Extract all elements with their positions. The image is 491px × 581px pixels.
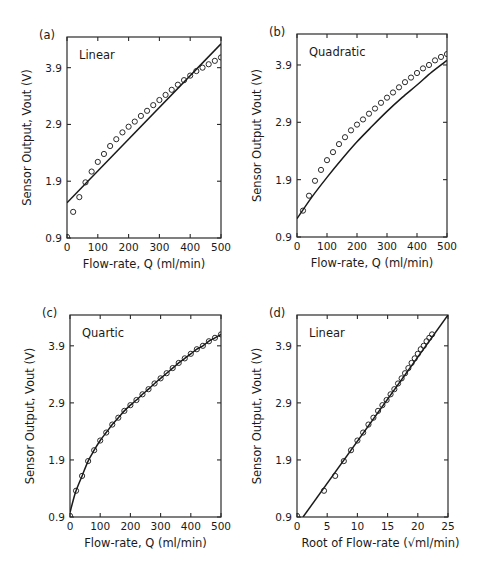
x-tick-label: 100 [317,240,337,252]
y-tick-label: 3.9 [275,59,292,71]
y-tick-label: 1.9 [45,175,62,187]
data-point [157,97,162,102]
y-axis-label: Sensor Output, Vout (V) [250,348,264,485]
x-tick-label: 25 [441,520,454,532]
fit-type-label: Linear [309,326,345,340]
y-tick-label: 2.9 [48,397,65,409]
figure: 01002003004005000.91.92.93.9(a)LinearFlo… [0,0,491,581]
data-point [138,113,143,118]
y-tick-label: 3.9 [48,340,65,352]
data-point [378,100,383,105]
fit-line [297,60,447,218]
x-tick-label: 0 [64,241,71,253]
y-tick-label: 1.9 [48,454,65,466]
data-point [132,119,137,124]
data-point [114,137,119,142]
data-point [101,151,106,156]
data-point [432,58,437,63]
y-axis-label: Sensor Output, Vout (V) [23,348,37,485]
y-tick-label: 2.9 [275,116,292,128]
y-axis-label: Sensor Output Vout (V) [250,69,264,202]
x-tick-label: 200 [347,240,367,252]
x-tick-label: 100 [90,520,110,532]
data-point [360,117,365,122]
y-axis-label: Sensor Output, Vout (V) [20,69,34,206]
panel-label: (d) [269,306,285,320]
data-point [206,62,211,67]
x-axis-label: Flow-rate, Q (ml/min) [311,256,434,270]
data-point [77,195,82,200]
y-tick-label: 0.9 [275,231,292,243]
data-point [438,54,443,59]
fit-line [303,315,448,517]
x-tick-label: 300 [149,241,169,253]
panel-a: 01002003004005000.91.92.93.9(a)LinearFlo… [20,28,231,271]
data-point [144,108,149,113]
x-tick-label: 400 [181,520,201,532]
x-tick-label: 200 [120,520,140,532]
x-tick-label: 500 [211,520,231,532]
y-tick-label: 3.9 [45,62,62,74]
data-point [396,85,401,90]
data-point [366,111,371,116]
fit-line [70,334,221,512]
plot-frame [70,315,221,517]
data-point [342,135,347,140]
panel-b: 01002003004005000.91.92.93.9(b)Quadratic… [250,25,457,270]
y-tick-label: 1.9 [275,454,292,466]
data-point [95,159,100,164]
data-point [318,167,323,172]
data-point [390,90,395,95]
fit-type-label: Quadratic [309,45,366,59]
x-tick-label: 0 [294,520,301,532]
x-tick-label: 100 [88,241,108,253]
panel-label: (a) [39,28,55,42]
y-tick-label: 2.9 [45,118,62,130]
x-tick-label: 10 [351,520,364,532]
x-tick-label: 500 [211,241,231,253]
panel-label: (b) [269,25,285,39]
panel-d: 05101520250.91.92.93.9(d)LinearRoot of F… [250,306,460,550]
data-point [169,87,174,92]
fit-type-label: Quartic [82,326,124,340]
x-tick-label: 0 [67,520,74,532]
data-point [71,209,76,214]
y-tick-label: 3.9 [275,340,292,352]
panel-c: 01002003004005000.91.92.93.9(c)QuarticFl… [23,306,231,550]
x-tick-label: 15 [381,520,394,532]
data-point [348,128,353,133]
data-point [163,92,168,97]
data-point [420,66,425,71]
panel-label: (c) [42,306,57,320]
data-point [336,142,341,147]
data-point [414,70,419,75]
data-point [384,95,389,100]
x-tick-label: 5 [324,520,331,532]
plot-frame [297,34,447,237]
y-tick-label: 2.9 [275,397,292,409]
data-point [120,130,125,135]
data-point [108,143,113,148]
data-point [408,75,413,80]
x-tick-label: 0 [294,240,301,252]
x-tick-label: 500 [437,240,457,252]
data-point [426,62,431,67]
x-tick-label: 20 [411,520,424,532]
data-point [126,124,131,129]
x-tick-label: 300 [377,240,397,252]
x-axis-label: Root of Flow-rate (√ml/min) [301,536,459,550]
x-axis-label: Flow-rate, Q (ml/min) [84,536,207,550]
y-tick-label: 0.9 [45,232,62,244]
data-point [151,103,156,108]
x-tick-label: 200 [119,241,139,253]
data-point [312,178,317,183]
y-tick-label: 0.9 [275,511,292,523]
y-tick-label: 1.9 [275,174,292,186]
data-point [354,122,359,127]
fit-type-label: Linear [79,48,115,62]
fit-line [67,44,221,203]
data-point [212,58,217,63]
data-point [324,158,329,163]
data-point [89,169,94,174]
x-tick-label: 400 [180,241,200,253]
